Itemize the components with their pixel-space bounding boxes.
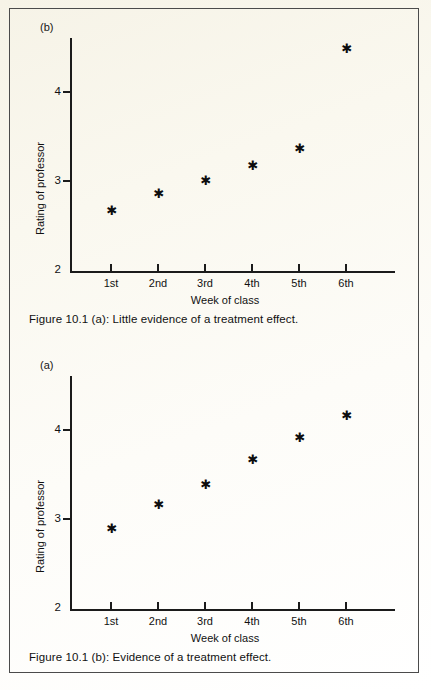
scanned-page: (b) 4 3 2 1st 2nd 3rd 4th 5th 6th: [0, 0, 431, 690]
data-point-top-6: ✱: [342, 44, 351, 53]
x-tick-label-4-bottom: 4th: [235, 615, 269, 627]
y-axis-title-bottom: Rating of professor: [34, 480, 46, 573]
x-axis-title-bottom: Week of class: [155, 632, 295, 644]
data-point-bottom-1: ✱: [107, 524, 116, 533]
y-tick-label-4-bottom: 4: [39, 423, 61, 435]
y-tick-label-4-top: 4: [39, 85, 61, 97]
data-point-top-1: ✱: [107, 206, 116, 215]
data-point-bottom-5: ✱: [295, 433, 304, 442]
y-tick-3-bottom: [63, 518, 72, 520]
data-point-top-4: ✱: [248, 161, 257, 170]
figure-bottom: (a) 4 3 2 1st 2nd 3rd 4th 5th 6th: [0, 338, 431, 683]
figure-top: (b) 4 3 2 1st 2nd 3rd 4th 5th 6th: [0, 0, 431, 345]
x-tick-5-top: [298, 264, 300, 272]
data-point-bottom-3: ✱: [201, 480, 210, 489]
data-point-bottom-6: ✱: [342, 411, 351, 420]
data-point-bottom-4: ✱: [248, 455, 257, 464]
x-tick-label-6-top: 6th: [329, 277, 363, 289]
x-tick-4-top: [251, 264, 253, 272]
x-tick-4-bottom: [251, 602, 253, 610]
scatter-plot-bottom: 4 3 2 1st 2nd 3rd 4th 5th 6th ✱ ✱ ✱ ✱ ✱ …: [0, 338, 431, 638]
x-tick-1-bottom: [110, 602, 112, 610]
x-tick-1-top: [110, 264, 112, 272]
x-tick-label-1-bottom: 1st: [94, 615, 128, 627]
y-tick-label-2-top: 2: [39, 263, 61, 275]
x-tick-6-top: [345, 264, 347, 272]
x-tick-label-3-top: 3rd: [188, 277, 222, 289]
x-tick-2-top: [157, 264, 159, 272]
data-point-top-5: ✱: [295, 144, 304, 153]
y-axis-line-bottom: [70, 376, 72, 611]
x-tick-5-bottom: [298, 602, 300, 610]
figure-caption-bottom: Figure 10.1 (b): Evidence of a treatment…: [29, 651, 271, 663]
x-tick-label-2-bottom: 2nd: [141, 615, 175, 627]
x-axis-title-top: Week of class: [155, 294, 295, 306]
x-tick-3-top: [204, 264, 206, 272]
scatter-plot-top: 4 3 2 1st 2nd 3rd 4th 5th 6th ✱ ✱ ✱ ✱ ✱ …: [0, 0, 431, 300]
y-tick-label-2-bottom: 2: [39, 601, 61, 613]
x-tick-label-2-top: 2nd: [141, 277, 175, 289]
y-tick-4-top: [63, 91, 72, 93]
x-tick-label-4-top: 4th: [235, 277, 269, 289]
data-point-bottom-2: ✱: [154, 500, 163, 509]
data-point-top-2: ✱: [154, 189, 163, 198]
y-tick-4-bottom: [63, 429, 72, 431]
x-tick-6-bottom: [345, 602, 347, 610]
data-point-top-3: ✱: [201, 176, 210, 185]
x-tick-label-6-bottom: 6th: [329, 615, 363, 627]
x-tick-3-bottom: [204, 602, 206, 610]
y-axis-line-top: [70, 38, 72, 273]
x-tick-label-5-top: 5th: [282, 277, 316, 289]
x-tick-2-bottom: [157, 602, 159, 610]
x-tick-label-3-bottom: 3rd: [188, 615, 222, 627]
y-tick-3-top: [63, 180, 72, 182]
x-tick-label-5-bottom: 5th: [282, 615, 316, 627]
x-tick-label-1-top: 1st: [94, 277, 128, 289]
figure-caption-top: Figure 10.1 (a): Little evidence of a tr…: [29, 313, 298, 325]
y-axis-title-top: Rating of professor: [34, 142, 46, 235]
